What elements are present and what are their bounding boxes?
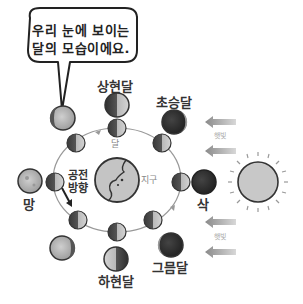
orbit-moon-top-left (67, 134, 85, 152)
speech-bubble-line-2: 달의 모습이에요. (32, 40, 132, 58)
full-moon-icon (18, 169, 42, 193)
waning-crescent-moon-icon (158, 233, 183, 257)
waning-gibbous-moon-icon (50, 236, 75, 260)
moon-phase-diagram: 우리 눈에 보이는 달의 모습이에요. 상현달 초승달 삭 그믐달 하현달 망 … (0, 0, 303, 304)
waxing-gibbous-moon-icon (50, 106, 75, 130)
earth-icon (95, 158, 139, 202)
orbit-moon-right (172, 173, 190, 191)
label-waxing-crescent: 초승달 (156, 96, 192, 109)
orbit-moon-bottom-right (144, 211, 162, 229)
orbit-moon-top (108, 119, 126, 137)
label-waning-crescent: 그믐달 (152, 261, 188, 274)
sunlight-arrow-icon (205, 116, 236, 128)
label-last-quarter: 하현달 (98, 275, 134, 288)
orbit-moon-bottom-left (69, 211, 87, 229)
sunlight-arrow-icon (205, 145, 236, 157)
label-new-moon: 삭 (197, 198, 209, 211)
orbit-moon-left (46, 173, 64, 191)
first-quarter-moon-icon (105, 93, 129, 117)
label-full-moon: 망 (23, 198, 35, 211)
label-orbit-direction-2: 방향 (68, 183, 88, 194)
sunlight-arrow-icon (205, 246, 236, 258)
sun-icon (228, 152, 288, 212)
speech-bubble-text: 우리 눈에 보이는 달의 모습이에요. (32, 22, 132, 58)
speech-bubble-line-1: 우리 눈에 보이는 (32, 22, 132, 40)
label-sunlight-top: 햇빛 (214, 133, 226, 140)
label-moon: 달 (111, 140, 119, 149)
label-earth: 지구 (141, 176, 157, 185)
waxing-crescent-moon-icon (162, 110, 187, 134)
label-first-quarter: 상현달 (97, 80, 133, 93)
last-quarter-moon-icon (104, 247, 128, 271)
orbit-moon-top-right (153, 134, 171, 152)
orbit-moon-bottom (108, 223, 126, 241)
sunlight-arrow-icon (205, 216, 236, 228)
new-moon-icon (192, 170, 216, 194)
label-orbit-direction-1: 공전 (68, 170, 88, 181)
label-sunlight-bottom: 햇빛 (214, 234, 226, 241)
